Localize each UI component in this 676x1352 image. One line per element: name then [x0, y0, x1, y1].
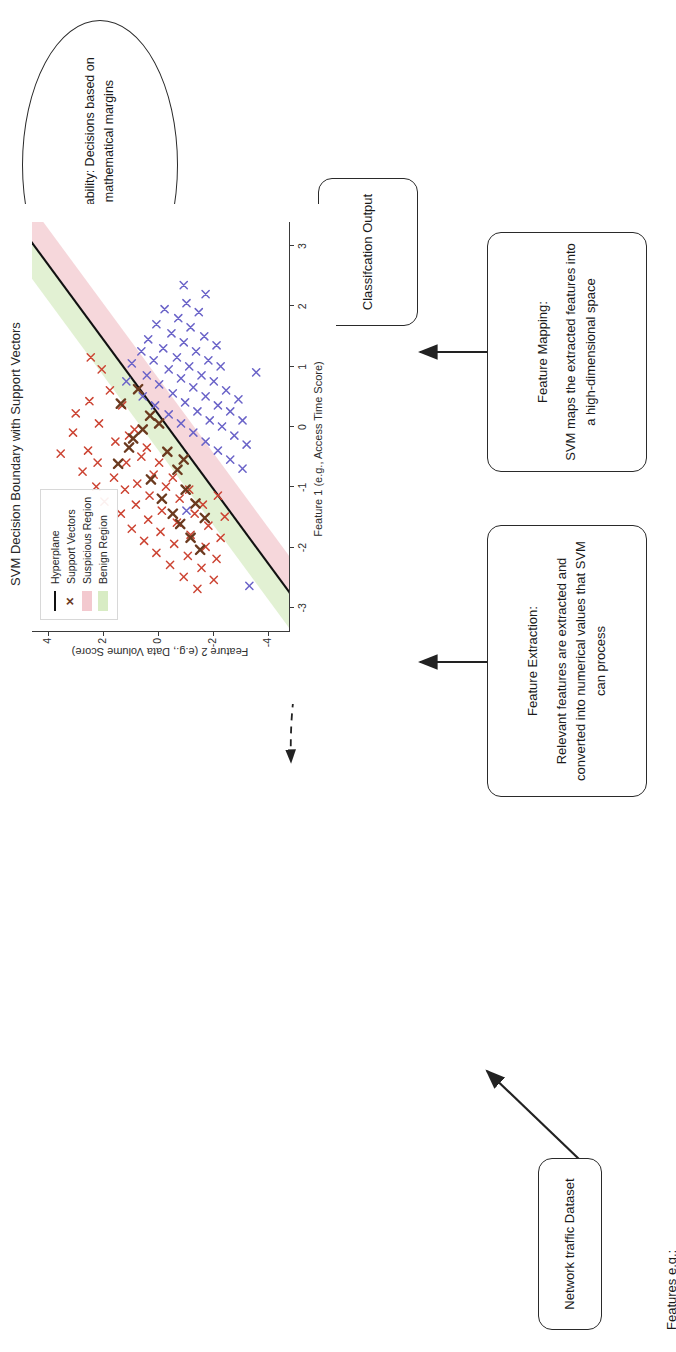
dataset-box[interactable]: Network traffic Dataset — [538, 1158, 602, 1330]
scatter-point-marker — [182, 399, 189, 406]
feature-mapping-body: SVM maps the extracted features into a h… — [561, 243, 600, 461]
classification-output-title: Classifcation Output — [359, 194, 377, 310]
scatter-point-marker — [184, 552, 191, 559]
hyperplane-line-icon — [54, 591, 56, 611]
diagram-stage: Network traffic Dataset Feature Extracti… — [0, 0, 676, 1352]
scatter-point-marker — [194, 408, 201, 415]
scatter-point-marker — [176, 495, 183, 502]
scatter-point-marker — [202, 291, 209, 298]
legend-item: ✕Support Vectors — [63, 497, 78, 612]
x-tick-label: 3 — [296, 237, 308, 255]
scatter-point-marker — [94, 459, 101, 466]
scatter-point-marker — [160, 345, 167, 352]
scatter-point-marker — [134, 480, 141, 487]
legend-item-label: Suspicious Region — [81, 497, 93, 584]
scatter-point-marker — [205, 357, 212, 364]
legend-item: Hyperplane — [47, 497, 62, 612]
support-vector-marker — [125, 443, 133, 451]
scatter-point-marker — [235, 396, 242, 403]
scatter-point-marker — [145, 516, 152, 523]
scatter-point-marker — [57, 450, 64, 457]
scatter-point-marker — [213, 342, 220, 349]
scatter-point-marker — [158, 507, 165, 514]
scatter-point-marker — [138, 453, 145, 460]
scatter-point-marker — [205, 522, 212, 529]
scatter-point-marker — [123, 459, 130, 466]
x-tick-label: 2 — [296, 297, 308, 315]
plot-yaxis-label: Feature 2 (e.g., Data Volume Score) — [60, 646, 260, 658]
x-tick-label: -3 — [296, 599, 308, 617]
scatter-point-marker — [217, 363, 224, 370]
x-tickmark — [290, 366, 294, 367]
x-tickmark — [290, 547, 294, 548]
scatter-point-marker — [128, 525, 135, 532]
scatter-point-marker — [194, 585, 201, 592]
scatter-point-marker — [190, 384, 197, 391]
scatter-point-marker — [150, 357, 157, 364]
scatter-point-marker — [145, 336, 152, 343]
x-tickmark — [290, 305, 294, 306]
support-vector-marker — [129, 434, 137, 442]
scatter-point-marker — [162, 483, 169, 490]
scatter-point-marker — [141, 537, 148, 544]
scatter-point-marker — [243, 441, 250, 448]
x-tick-label: 1 — [296, 358, 308, 376]
x-tick-label: -2 — [296, 539, 308, 557]
scatter-point-marker — [227, 408, 234, 415]
scatter-point-marker — [171, 540, 178, 547]
legend-marker-key: ✕ — [65, 590, 76, 612]
scatter-point-marker — [131, 426, 138, 433]
scatter-point-marker — [165, 366, 172, 373]
scatter-point-marker — [169, 474, 176, 481]
features-note: Features e.g.: * Source IP Address * Des… — [640, 830, 676, 1330]
support-vector-marker — [201, 514, 209, 522]
scatter-point-marker — [79, 468, 86, 475]
dataset-box-title: Network traffic Dataset — [561, 1178, 579, 1309]
scatter-point-marker — [112, 438, 119, 445]
scatter-point-marker — [239, 417, 246, 424]
features-heading: Features e.g.: — [661, 830, 676, 1330]
feature-mapping-box[interactable]: Feature Mapping: SVM maps the extracted … — [487, 232, 647, 472]
scatter-point-marker — [132, 501, 139, 508]
scatter-point-marker — [198, 372, 205, 379]
feature-mapping-title: Feature Mapping: — [534, 301, 552, 403]
scatter-point-marker — [106, 387, 113, 394]
scatter-point-marker — [95, 420, 102, 427]
scatter-point-marker — [173, 354, 180, 361]
diagram-canvas: Network traffic Dataset Feature Extracti… — [0, 0, 676, 1352]
scatter-point-marker — [192, 348, 199, 355]
plot-title: SVM Decision Boundary with Support Vecto… — [8, 204, 23, 704]
support-vector-marker — [158, 494, 166, 502]
scatter-point-marker — [143, 444, 150, 451]
scatter-point-marker — [180, 573, 187, 580]
scatter-point-marker — [223, 387, 230, 394]
scatter-point-marker — [246, 582, 253, 589]
legend-item-label: Support Vectors — [65, 509, 77, 584]
scatter-point-marker — [206, 417, 213, 424]
scatter-point-marker — [157, 528, 164, 535]
scatter-point-marker — [153, 321, 160, 328]
region-swatch-icon — [82, 591, 92, 611]
scatter-point-marker — [72, 410, 79, 417]
arrow-dataset-to-extraction — [487, 1071, 580, 1160]
scatter-point-marker — [180, 339, 187, 346]
scatter-point-marker — [186, 363, 193, 370]
scatter-point-marker — [121, 486, 128, 493]
scatter-point-marker — [210, 378, 217, 385]
scatter-point-marker — [214, 447, 221, 454]
y-tickmark — [103, 632, 104, 636]
plot-legend: Hyperplane✕Support VectorsSuspicious Reg… — [40, 489, 118, 620]
y-tickmark — [213, 632, 214, 636]
y-tickmark — [48, 632, 49, 636]
feature-extraction-title: Feature Extraction: — [524, 606, 542, 716]
scatter-point-marker — [183, 507, 190, 514]
feature-extraction-box[interactable]: Feature Extraction: Relevant features ar… — [487, 525, 647, 797]
legend-item-label: Hyperplane — [49, 530, 61, 584]
y-tickmark — [158, 632, 159, 636]
y-tick-label: -4 — [261, 638, 273, 658]
scatter-point-marker — [239, 465, 246, 472]
scatter-point-marker — [218, 423, 225, 430]
scatter-point-marker — [191, 510, 198, 517]
scatter-point-marker — [198, 564, 205, 571]
scatter-point-marker — [231, 432, 238, 439]
